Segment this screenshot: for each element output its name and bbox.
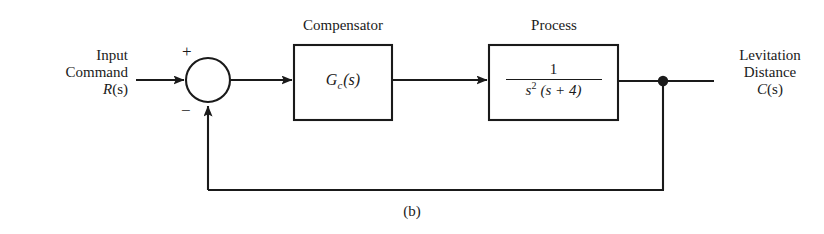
input-label-line1: Input — [0, 47, 128, 64]
input-label-signal: R(s) — [0, 81, 128, 98]
summing-junction-plus-sign: + — [182, 42, 192, 62]
output-label: Levitation Distance C(s) — [718, 47, 822, 97]
compensator-fn-var: G — [326, 71, 338, 88]
input-signal-arg: (s) — [112, 81, 128, 97]
summing-junction-minus-sign: − — [181, 101, 191, 121]
output-signal-var: C — [757, 81, 767, 97]
output-label-signal: C(s) — [718, 81, 822, 98]
process-fn-denominator: s2(s + 4) — [489, 81, 618, 99]
compensator-transfer-function: Gc(s) — [294, 71, 392, 91]
process-fn-numerator: 1 — [489, 62, 618, 78]
input-label-line2: Command — [0, 64, 128, 81]
process-title: Process — [498, 17, 610, 34]
compensator-title: Compensator — [283, 17, 403, 34]
input-label: Input Command R(s) — [0, 47, 128, 97]
output-label-line1: Levitation — [718, 47, 822, 64]
compensator-fn-arg: (s) — [343, 71, 360, 88]
output-label-line2: Distance — [718, 64, 822, 81]
output-signal-arg: (s) — [767, 81, 783, 97]
process-fn-fraction-bar — [506, 79, 602, 80]
takeoff-point-dot — [658, 76, 668, 86]
process-transfer-function: 1 s2(s + 4) — [489, 62, 618, 99]
compensator-fn-subscript: c — [337, 79, 342, 91]
process-fn-den-rest: (s + 4) — [540, 82, 581, 98]
summing-junction-circle — [186, 58, 230, 102]
diagram-canvas — [0, 0, 824, 234]
input-signal-var: R — [103, 81, 112, 97]
process-fn-den-exponent: 2 — [531, 80, 536, 91]
block-diagram-figure: Input Command R(s) + − Compensator Gc(s)… — [0, 0, 824, 234]
figure-caption: (b) — [0, 203, 824, 220]
